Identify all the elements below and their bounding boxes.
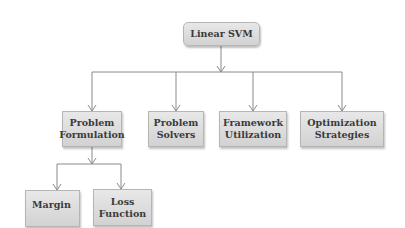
node-loss-function: LossFunction <box>93 189 152 226</box>
node-label-line2: Utilization <box>225 129 281 140</box>
node-label: Linear SVM <box>190 28 252 40</box>
node-label-line2: Strategies <box>315 129 370 140</box>
node-linear-svm: Linear SVM <box>183 22 260 46</box>
node-margin: Margin <box>25 190 80 227</box>
node-label-line2: Function <box>99 208 146 219</box>
node-label-line1: Problem <box>154 117 199 128</box>
node-optimization-strategies: OptimizationStrategies <box>300 111 384 147</box>
node-label-line1: Loss <box>111 196 135 207</box>
node-label-line1: Optimization <box>307 117 376 128</box>
node-label-line1: Framework <box>223 117 283 128</box>
node-label-line2: Formulation <box>59 129 125 140</box>
node-label: Margin <box>32 199 71 211</box>
node-label-line1: Problem <box>70 117 115 128</box>
node-framework-utilization: FrameworkUtilization <box>219 111 287 147</box>
node-label-line2: Solvers <box>157 129 196 140</box>
node-problem-formulation: ProblemFormulation <box>62 111 122 147</box>
node-problem-solvers: ProblemSolvers <box>148 111 204 147</box>
